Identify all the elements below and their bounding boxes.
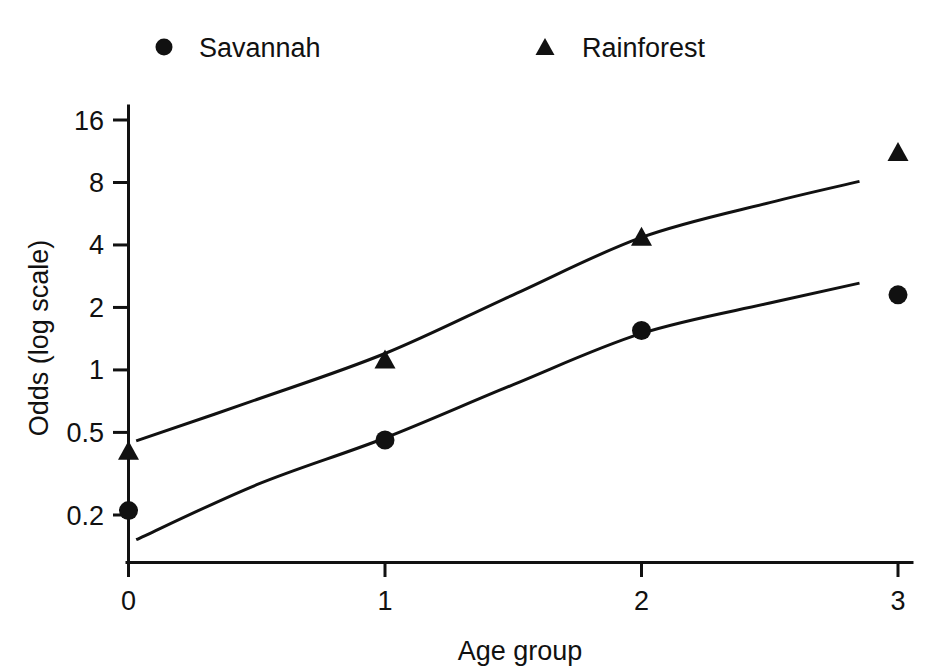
legend-label-savannah: Savannah [199, 33, 321, 63]
legend-triangle-marker [536, 38, 555, 55]
legend-item-rainforest: Rainforest [536, 33, 706, 63]
x-axis-ticks: 0123 [121, 562, 906, 616]
axis-frame [127, 106, 912, 563]
y-tick-label: 8 [89, 168, 104, 198]
data-point-circle-savannah-1 [376, 430, 395, 449]
legend-item-savannah: Savannah [156, 33, 321, 63]
fit-line-rainforest [136, 181, 859, 441]
y-tick-label: 0.2 [66, 501, 104, 531]
chart-figure: Savannah Rainforest 0.20.5124816 0123 Ag… [0, 0, 928, 672]
data-point-circle-savannah-2 [632, 321, 651, 340]
y-axis-ticks: 0.20.5124816 [66, 106, 128, 531]
data-point-triangle-rainforest-0 [118, 441, 139, 460]
x-axis-title: Age group [458, 636, 583, 666]
y-tick-label: 2 [89, 293, 104, 323]
y-tick-label: 0.5 [66, 418, 104, 448]
legend-label-rainforest: Rainforest [582, 33, 706, 63]
x-tick-label: 3 [890, 586, 905, 616]
chart-legend: Savannah Rainforest [156, 33, 706, 63]
x-tick-label: 0 [121, 586, 136, 616]
fitted-trend-lines [136, 181, 859, 539]
data-point-triangle-rainforest-1 [375, 350, 396, 369]
data-point-circle-savannah-3 [889, 285, 908, 304]
y-tick-label: 16 [74, 106, 104, 136]
data-point-triangle-rainforest-3 [888, 142, 909, 161]
x-tick-label: 1 [377, 586, 392, 616]
data-point-circle-savannah-0 [119, 501, 138, 520]
y-axis-title: Odds (log scale) [24, 240, 54, 437]
y-tick-label: 1 [89, 355, 104, 385]
odds-by-age-group-chart: Savannah Rainforest 0.20.5124816 0123 Ag… [0, 0, 928, 672]
x-tick-label: 2 [634, 586, 649, 616]
y-tick-label: 4 [89, 230, 104, 260]
legend-circle-marker [156, 39, 173, 56]
fit-line-savannah [136, 283, 859, 540]
